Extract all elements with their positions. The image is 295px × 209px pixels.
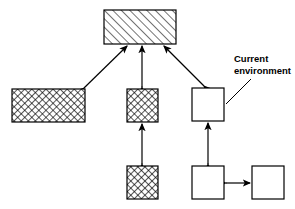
connector-layer (84, 46, 251, 183)
node-layer (12, 10, 284, 199)
connector-top-to-left (84, 46, 127, 88)
diagram-canvas: Current environment (0, 0, 295, 209)
middle-crosshatched-box[interactable] (127, 89, 158, 122)
bottom-left-plain-box[interactable] (192, 166, 224, 199)
current-environment-annotation: Current environment (234, 53, 292, 76)
diagram-svg: Current environment (0, 0, 295, 209)
bottom-right-plain-box[interactable] (252, 166, 284, 199)
connector-top-to-current-environment (164, 46, 204, 86)
current-environment-box[interactable] (192, 88, 224, 121)
annotation-line-1: Current (234, 53, 269, 64)
left-crosshatched-box[interactable] (12, 89, 85, 122)
top-hatched-box[interactable] (104, 10, 176, 44)
annotation-line-2: environment (234, 65, 292, 76)
callout-leader-line (226, 79, 251, 104)
middle-lower-crosshatched-box[interactable] (127, 166, 158, 199)
